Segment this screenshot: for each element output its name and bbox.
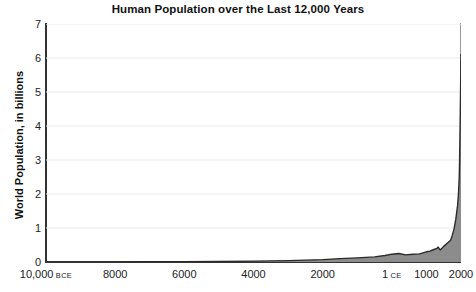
y-tick-label: 6 xyxy=(35,52,41,64)
gridlines xyxy=(46,24,461,228)
y-tick-label: 0 xyxy=(35,256,41,268)
population-line xyxy=(46,54,461,262)
y-tick-label: 5 xyxy=(35,86,41,98)
x-tick-era: CE xyxy=(388,271,401,280)
y-tick-label: 3 xyxy=(35,154,41,166)
plot-area: 01234567 10,000 BCE80006000400020001 CE1… xyxy=(46,24,461,262)
y-tick-label: 2 xyxy=(35,188,41,200)
x-tick-label: 2000 xyxy=(449,268,473,280)
chart-title: Human Population over the Last 12,000 Ye… xyxy=(0,3,476,15)
y-axis-label: World Population, in billions xyxy=(13,55,25,235)
x-tick-label: 2000 xyxy=(310,268,334,280)
population-area-chart xyxy=(46,24,461,262)
x-tick-label: 4000 xyxy=(241,268,265,280)
x-tick-label: 10,000 BCE xyxy=(20,268,72,280)
population-area-fill xyxy=(46,54,461,262)
y-tick-label: 1 xyxy=(35,222,41,234)
x-tick-label: 1 CE xyxy=(382,268,402,280)
y-tick-label: 7 xyxy=(35,18,41,30)
chart-figure: Human Population over the Last 12,000 Ye… xyxy=(0,0,476,292)
x-tick-label: 1000 xyxy=(414,268,438,280)
x-tick-era: BCE xyxy=(53,271,72,280)
x-tick-label: 6000 xyxy=(172,268,196,280)
x-tick-label: 8000 xyxy=(103,268,127,280)
y-tick-label: 4 xyxy=(35,120,41,132)
